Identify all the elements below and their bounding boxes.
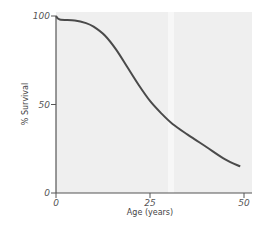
x-tick-label: 50	[238, 198, 250, 208]
x-tick-label: 0	[53, 198, 59, 208]
y-ticks: 050100	[33, 11, 56, 198]
x-tick-label: 25	[144, 198, 156, 208]
x-ticks: 02550	[53, 193, 250, 208]
y-tick-label: 0	[44, 188, 50, 198]
plot-background	[56, 12, 252, 193]
y-tick-label: 100	[33, 11, 50, 21]
survival-chart: 050100 02550 Age (years) % Survival	[0, 0, 262, 234]
y-tick-label: 50	[39, 100, 51, 110]
y-axis-title: % Survival	[21, 83, 30, 125]
plot-stripe	[168, 12, 174, 193]
x-axis-title: Age (years)	[127, 208, 173, 217]
